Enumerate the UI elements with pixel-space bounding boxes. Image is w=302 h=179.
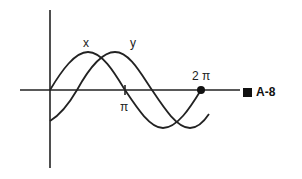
two-pi-point: [197, 86, 205, 94]
curve-y-label: y: [130, 37, 136, 49]
figure-tag: A-8: [243, 85, 275, 99]
square-bullet-icon: [243, 88, 252, 97]
two-pi-label: 2 π: [192, 70, 210, 82]
figure-tag-label: A-8: [256, 85, 275, 99]
curve-x-label: x: [83, 37, 89, 49]
pi-label: π: [120, 101, 128, 113]
